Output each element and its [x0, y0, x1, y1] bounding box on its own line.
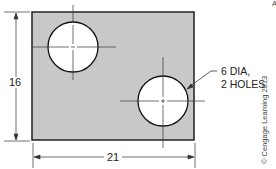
- height-label: 16: [9, 76, 21, 88]
- technical-drawing: 16 21 6 DIA, 2 HOLES © Cengage Learning …: [0, 0, 276, 169]
- hole-note-line-2: 2 HOLES: [221, 78, 265, 90]
- corner-mark: A: [272, 0, 276, 8]
- copyright-credit: © Cengage Learning 2013: [260, 76, 269, 164]
- width-label: 21: [107, 151, 119, 163]
- hole-note-line-1: 6 DIA,: [221, 65, 250, 77]
